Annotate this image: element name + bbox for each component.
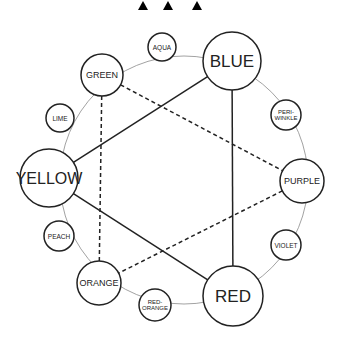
node-blue: BLUE — [203, 32, 261, 90]
node-peach: PEACH — [44, 221, 74, 251]
triangle-icon — [192, 1, 202, 10]
color-nodes: BLUEREDYELLOWGREENPURPLEORANGEAQUAPERI-W… — [16, 32, 324, 326]
node-label: VIOLET — [274, 242, 297, 249]
dashed-line-green-purple — [121, 85, 283, 171]
node-label: RED — [215, 287, 251, 306]
node-aqua: AQUA — [148, 33, 176, 61]
node-label: PERI- — [278, 109, 294, 115]
secondary-triad-lines — [99, 85, 282, 273]
node-green: GREEN — [81, 54, 123, 96]
node-red-orange: RED-ORANGE — [139, 289, 171, 321]
solid-line-blue-red — [232, 90, 233, 266]
node-red: RED — [203, 266, 263, 326]
node-label: BLUE — [210, 52, 254, 71]
node-orange: ORANGE — [77, 261, 121, 305]
dashed-line-purple-orange — [119, 191, 283, 273]
node-lime: LIME — [46, 104, 74, 132]
node-label: GREEN — [86, 70, 118, 80]
node-yellow: YELLOW — [16, 149, 84, 207]
color-wheel-diagram: BLUEREDYELLOWGREENPURPLEORANGEAQUAPERI-W… — [0, 0, 342, 338]
dashed-line-orange-green — [99, 96, 101, 261]
node-label: PEACH — [48, 233, 71, 240]
node-label: LIME — [52, 115, 68, 122]
triangle-icon — [138, 1, 148, 10]
node-label: AQUA — [153, 44, 172, 52]
node-label: ORANGE — [142, 305, 168, 311]
node-label: WINKLE — [274, 115, 297, 121]
triangle-icon — [163, 1, 173, 10]
primary-triad-lines — [73, 77, 232, 280]
node-periwinkle: PERI-WINKLE — [271, 100, 301, 130]
node-violet: VIOLET — [271, 230, 301, 260]
node-label: PURPLE — [284, 176, 320, 186]
node-label: ORANGE — [79, 278, 118, 288]
node-purple: PURPLE — [280, 159, 324, 203]
header-markers — [138, 1, 202, 10]
node-label: YELLOW — [16, 170, 84, 187]
node-label: RED- — [148, 299, 163, 305]
